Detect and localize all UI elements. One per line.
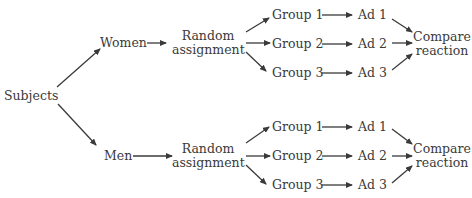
group1-node-women: Group 1	[272, 8, 323, 22]
arrow-random-group1-w	[246, 18, 269, 32]
assignment-label: assignment	[172, 43, 244, 57]
arrow-subjects-men	[58, 104, 96, 145]
arrow-random-group1-m	[246, 127, 269, 143]
group1-node-men: Group 1	[272, 120, 323, 134]
reaction-label: reaction	[412, 44, 472, 58]
group2-node-women: Group 2	[272, 37, 323, 51]
reaction-label: reaction	[412, 156, 472, 170]
arrow-random-group3-w	[246, 52, 266, 71]
arrow-subjects-women	[57, 49, 100, 87]
subjects-node: Subjects	[4, 89, 58, 103]
group3-node-men: Group 3	[272, 178, 323, 192]
ad3-node-men: Ad 3	[358, 178, 387, 192]
ad1-node-women: Ad 1	[358, 8, 387, 22]
assignment-label: assignment	[172, 156, 244, 170]
ad3-node-women: Ad 3	[358, 66, 387, 80]
experimental-design-diagram: Subjects Women Random assignment Group 1…	[0, 0, 472, 198]
group3-node-women: Group 3	[272, 66, 323, 80]
arrow-ad1-compare-m	[392, 129, 412, 144]
compare-label: Compare	[412, 30, 472, 44]
ad1-node-men: Ad 1	[358, 120, 387, 134]
men-node: Men	[104, 149, 132, 163]
compare-label: Compare	[412, 142, 472, 156]
random-assignment-node-men: Random assignment	[172, 142, 244, 170]
compare-reaction-node-women: Compare reaction	[412, 30, 472, 58]
random-label: Random	[172, 29, 244, 43]
arrow-ad1-compare-w	[392, 19, 412, 32]
compare-reaction-node-men: Compare reaction	[412, 142, 472, 170]
arrow-ad3-compare-w	[392, 54, 412, 70]
ad2-node-men: Ad 2	[358, 149, 387, 163]
random-assignment-node-women: Random assignment	[172, 29, 244, 57]
group2-node-men: Group 2	[272, 149, 323, 163]
women-node: Women	[100, 36, 147, 50]
random-label: Random	[172, 142, 244, 156]
ad2-node-women: Ad 2	[358, 37, 387, 51]
arrow-random-group3-m	[246, 165, 266, 184]
arrow-ad3-compare-m	[392, 166, 412, 183]
